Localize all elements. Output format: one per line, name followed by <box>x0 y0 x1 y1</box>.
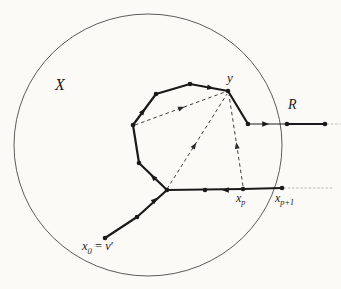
dashed-arrowhead-0 <box>178 104 186 111</box>
vertex-x0-label: x0 = v′ <box>82 240 113 253</box>
graph-diagram <box>0 0 341 289</box>
prime-mark: ′ <box>111 239 114 253</box>
vertex-xp-label: xp <box>236 192 245 204</box>
ray-R-label: R <box>288 98 297 112</box>
vertex-dot-8 <box>246 122 251 127</box>
entry-from-x0 <box>105 190 167 238</box>
dashed-arrowhead-1 <box>191 141 199 149</box>
vertex-dot-3 <box>137 161 142 166</box>
vertex-dot-6 <box>188 82 193 87</box>
figure-canvas: X y R xp xp+1 x0 = v′ <box>0 0 341 289</box>
vertex-dot-2 <box>165 188 170 193</box>
vertex-dot-11 <box>203 188 208 193</box>
vertex-dot-9 <box>285 122 290 127</box>
vertex-dot-12 <box>241 187 246 192</box>
vertex-dot-5 <box>154 92 159 97</box>
xp1-subscript: p+1 <box>280 198 294 207</box>
equals-sign: = <box>92 239 105 253</box>
dashed-arrowhead-2 <box>234 142 240 149</box>
vertex-dot-7 <box>226 89 231 94</box>
vertex-dot-10 <box>323 122 328 127</box>
dashed-arrow-1 <box>167 94 227 189</box>
dashed-arrow-2 <box>229 95 243 186</box>
polygon-left-top <box>133 84 228 190</box>
set-X-circle <box>14 14 282 276</box>
vertex-dot-4 <box>131 123 136 128</box>
vertex-dot-13 <box>280 186 285 191</box>
vertex-xp1-label: xp+1 <box>275 192 294 204</box>
set-X-label: X <box>55 77 65 93</box>
vertex-y-label: y <box>227 71 233 84</box>
vertex-dot-1 <box>135 215 140 220</box>
walk-arrowhead-5 <box>222 187 229 192</box>
xp-subscript: p <box>241 198 245 207</box>
walk-arrowhead-4 <box>262 121 269 126</box>
